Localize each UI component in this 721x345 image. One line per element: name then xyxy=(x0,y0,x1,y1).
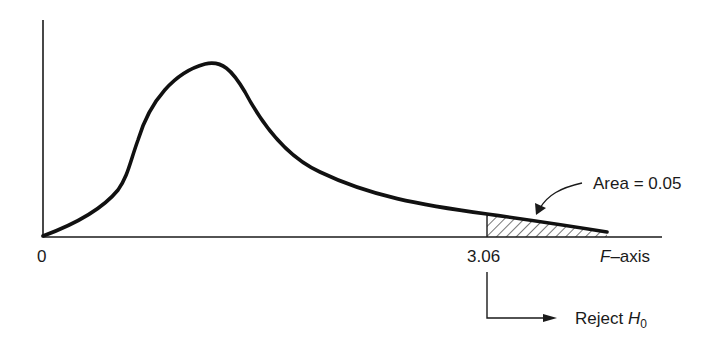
x-axis-label: F–axis xyxy=(600,248,650,265)
x-axis-variable: F xyxy=(600,247,610,266)
area-pointer-arrow xyxy=(540,183,582,208)
reject-pointer-line xyxy=(487,272,548,318)
f-distribution-chart xyxy=(0,0,721,345)
x-axis-suffix: –axis xyxy=(610,247,650,266)
critical-value-label: 3.06 xyxy=(467,248,500,265)
area-annotation: Area = 0.05 xyxy=(593,175,681,192)
origin-tick-label: 0 xyxy=(37,248,46,265)
density-curve xyxy=(43,63,607,236)
hypothesis-symbol: H xyxy=(628,309,640,328)
reject-text: Reject xyxy=(575,309,628,328)
hypothesis-subscript: 0 xyxy=(640,317,647,331)
arrowhead-icon xyxy=(535,203,546,215)
reject-annotation: Reject H0 xyxy=(575,310,647,327)
arrowhead-icon xyxy=(543,314,557,322)
